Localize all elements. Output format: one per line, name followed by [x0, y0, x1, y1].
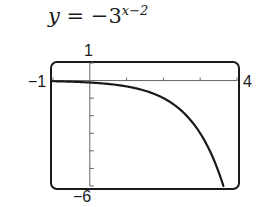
graph-canvas — [0, 0, 261, 207]
function-curve — [53, 81, 223, 186]
